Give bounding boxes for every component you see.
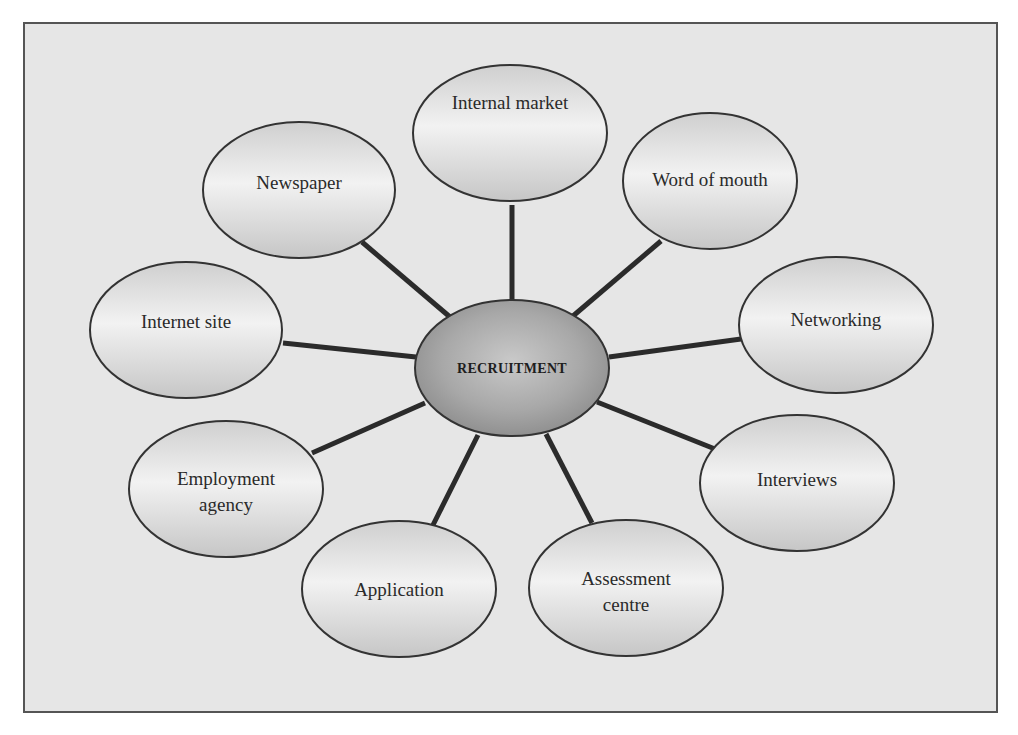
node-application: Application [302, 521, 496, 657]
ellipse-internal-market [413, 65, 607, 201]
label-employment-agency-line-2: agency [199, 494, 253, 515]
label-word-of-mouth: Word of mouth [652, 169, 768, 190]
connector-assessment-centre [546, 434, 592, 523]
connector-internet-site [283, 343, 416, 357]
center-node: RECRUITMENT [415, 300, 609, 436]
label-assessment-centre-line-1: Assessment [581, 568, 671, 589]
connector-newspaper [362, 242, 450, 317]
node-networking: Networking [739, 257, 933, 393]
label-internal-market: Internal market [452, 92, 569, 113]
label-assessment-centre-line-2: centre [603, 594, 649, 615]
connector-networking [609, 339, 741, 357]
center-label: RECRUITMENT [457, 361, 567, 376]
label-networking: Networking [791, 309, 882, 330]
connector-employment-agency [312, 403, 425, 453]
diagram-stage: Internal marketWord of mouthNetworkingIn… [0, 0, 1018, 735]
connector-application [433, 435, 478, 525]
label-newspaper: Newspaper [256, 172, 342, 193]
node-employment-agency: Employmentagency [129, 421, 323, 557]
recruitment-mind-map: Internal marketWord of mouthNetworkingIn… [0, 0, 1018, 735]
ellipse-employment-agency [129, 421, 323, 557]
node-assessment-centre: Assessmentcentre [529, 520, 723, 656]
node-word-of-mouth: Word of mouth [623, 113, 797, 249]
connector-interviews [597, 402, 715, 449]
label-application: Application [354, 579, 444, 600]
label-interviews: Interviews [757, 469, 837, 490]
node-newspaper: Newspaper [203, 122, 395, 258]
node-internal-market: Internal market [413, 65, 607, 201]
node-internet-site: Internet site [90, 262, 282, 398]
connector-word-of-mouth [573, 241, 661, 316]
label-employment-agency-line-1: Employment [177, 468, 276, 489]
node-interviews: Interviews [700, 415, 894, 551]
label-internet-site: Internet site [141, 311, 231, 332]
